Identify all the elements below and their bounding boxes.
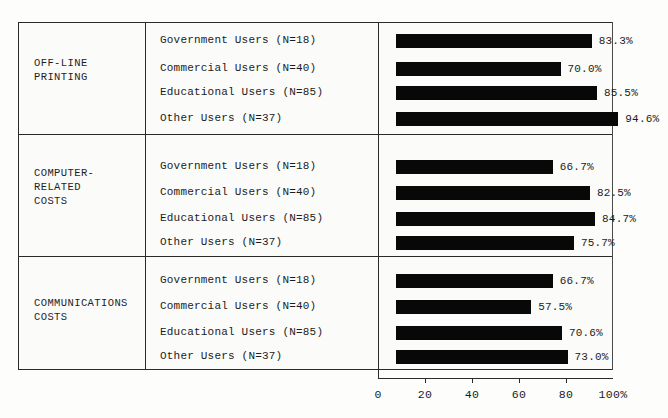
chart-row: Other Users (N=37) 75.7% <box>18 230 613 258</box>
row-series-label: Educational Users (N=85) <box>160 86 323 98</box>
bar-value-label: 70.6% <box>569 326 603 340</box>
bar[interactable] <box>396 34 592 48</box>
bar-value-label: 73.0% <box>575 350 609 364</box>
bar-track: 73.0% <box>378 344 613 372</box>
row-series-label: Other Users (N=37) <box>160 236 282 248</box>
bar-value-label: 82.5% <box>597 186 631 200</box>
row-series-label: Government Users (N=18) <box>160 34 316 46</box>
x-axis-tick-label: 60 <box>512 388 526 401</box>
x-axis-tick-label: 40 <box>465 388 479 401</box>
bar-value-label: 83.3% <box>599 34 633 48</box>
bar[interactable] <box>396 350 568 364</box>
bar[interactable] <box>396 62 561 76</box>
chart-group-off-line-printing: OFF-LINE PRINTING Government Users (N=18… <box>18 22 613 134</box>
bar-track: 66.7% <box>378 268 613 296</box>
bar-track: 57.5% <box>378 294 613 322</box>
bar-value-label: 57.5% <box>538 300 572 314</box>
bar[interactable] <box>396 112 618 126</box>
bar[interactable] <box>396 160 553 174</box>
chart-row: Government Users (N=18) 66.7% <box>18 154 613 182</box>
bar-value-label: 94.6% <box>625 112 659 126</box>
bar[interactable] <box>396 186 590 200</box>
chart-row: Commercial Users (N=40) 82.5% <box>18 180 613 208</box>
row-series-label: Educational Users (N=85) <box>160 326 323 338</box>
row-series-label: Government Users (N=18) <box>160 160 316 172</box>
bar-track: 75.7% <box>378 230 613 258</box>
x-axis-tick-label: 0 <box>374 388 381 401</box>
bar-value-label: 85.5% <box>604 86 638 100</box>
x-axis-tick-label: 20 <box>418 388 432 401</box>
row-series-label: Educational Users (N=85) <box>160 212 323 224</box>
bar[interactable] <box>396 300 531 314</box>
chart-group-computer-related-costs: COMPUTER- RELATED COSTS Government Users… <box>18 134 613 256</box>
x-axis-tick <box>566 378 567 383</box>
chart-row: Educational Users (N=85) 85.5% <box>18 80 613 108</box>
chart-row: Government Users (N=18) 83.3% <box>18 28 613 56</box>
bar-track: 85.5% <box>378 80 613 108</box>
row-series-label: Other Users (N=37) <box>160 112 282 124</box>
x-axis-tick <box>519 378 520 383</box>
bar-track: 66.7% <box>378 154 613 182</box>
bar[interactable] <box>396 326 562 340</box>
bar-value-label: 66.7% <box>560 160 594 174</box>
row-series-label: Commercial Users (N=40) <box>160 62 316 74</box>
row-series-label: Commercial Users (N=40) <box>160 300 316 312</box>
x-axis-tick-label: 80 <box>559 388 573 401</box>
bar-track: 82.5% <box>378 180 613 208</box>
chart-row: Other Users (N=37) 73.0% <box>18 344 613 372</box>
x-axis-tick-label: 100% <box>599 388 628 401</box>
bar[interactable] <box>396 236 574 250</box>
chart-row: Government Users (N=18) 66.7% <box>18 268 613 296</box>
bar[interactable] <box>396 212 595 226</box>
chart-row: Commercial Users (N=40) 57.5% <box>18 294 613 322</box>
bar[interactable] <box>396 274 553 288</box>
bar-value-label: 75.7% <box>581 236 615 250</box>
chart-row: Other Users (N=37) 94.6% <box>18 106 613 134</box>
row-series-label: Commercial Users (N=40) <box>160 186 316 198</box>
x-axis-tick <box>425 378 426 383</box>
row-series-label: Government Users (N=18) <box>160 274 316 286</box>
row-series-label: Other Users (N=37) <box>160 350 282 362</box>
x-axis-tick <box>472 378 473 383</box>
chart-group-communications-costs: COMMUNICATIONS COSTS Government Users (N… <box>18 256 613 370</box>
bar-track: 94.6% <box>378 106 613 134</box>
bar-value-label: 70.0% <box>568 62 602 76</box>
bar[interactable] <box>396 86 597 100</box>
bar-value-label: 84.7% <box>602 212 636 226</box>
plot-x-axis <box>378 378 613 379</box>
bar-track: 83.3% <box>378 28 613 56</box>
bar-value-label: 66.7% <box>560 274 594 288</box>
chart-root: OFF-LINE PRINTING Government Users (N=18… <box>0 0 668 418</box>
